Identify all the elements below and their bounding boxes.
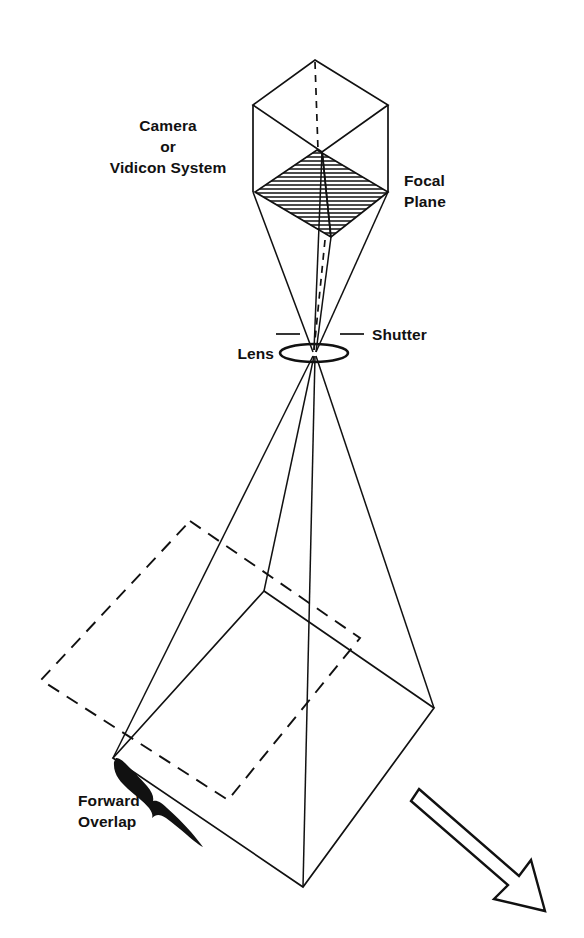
label-lens: Lens — [237, 345, 274, 362]
label-shutter: Shutter — [372, 326, 427, 343]
camera-geometry-diagram: Camera or Vidicon System Focal Plane Shu… — [0, 0, 584, 938]
ray-lens-to-ground-left — [113, 356, 313, 758]
ray-focal-left-to-lens — [253, 192, 313, 352]
upper-ray-cone — [253, 152, 388, 352]
label-camera-line3: Vidicon System — [110, 159, 227, 176]
label-camera-line1: Camera — [139, 117, 197, 134]
flight-direction-arrow — [411, 789, 545, 911]
label-overlap-line1: Forward — [78, 792, 140, 809]
ray-lens-to-ground-right — [316, 356, 434, 708]
label-focal-line2: Plane — [404, 193, 446, 210]
label-camera-line2: or — [160, 138, 176, 155]
figure-root: Camera or Vidicon System Focal Plane Shu… — [0, 0, 584, 938]
diagram-labels: Camera or Vidicon System Focal Plane Shu… — [78, 117, 446, 830]
ray-lens-to-ground-top — [264, 356, 314, 591]
optical-axis-upper — [315, 62, 318, 150]
camera-box-top-face — [253, 60, 388, 152]
label-overlap-line2: Overlap — [78, 813, 136, 830]
label-focal-line1: Focal — [404, 172, 445, 189]
current-exposure-footprint — [113, 591, 434, 887]
